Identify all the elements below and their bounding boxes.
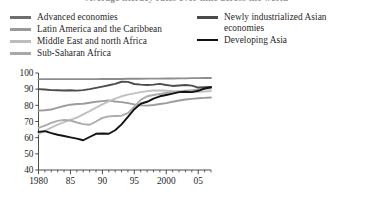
legend-column-left: Advanced economies Latin America and the… <box>10 12 195 60</box>
series-line-newly-industrialized-asian-economies <box>39 82 212 91</box>
legend-label: Developing Asia <box>224 35 287 46</box>
legend-swatch-icon <box>10 28 31 31</box>
legend-item-sub-saharan-africa: Sub-Saharan Africa <box>10 48 195 59</box>
legend-swatch-icon <box>197 39 218 42</box>
figure-title: Average literacy rates over time across … <box>0 0 374 3</box>
chart-legend: Advanced economies Latin America and the… <box>0 12 374 62</box>
legend-item-latin-america-and-the-caribbean: Latin America and the Caribbean <box>10 24 195 35</box>
y-tick-label: 90 <box>24 84 34 94</box>
y-tick-label: 60 <box>24 133 34 143</box>
legend-label: Newly industrialized Asian economies <box>224 12 327 33</box>
y-tick-label: 70 <box>24 117 34 127</box>
plot-area: 405060708090100 1980859095200005 <box>0 60 374 200</box>
legend-label-line-2: economies <box>224 23 327 34</box>
y-tick-label: 100 <box>19 68 33 78</box>
y-axis: 405060708090100 <box>19 68 38 175</box>
y-tick-label: 50 <box>24 149 34 159</box>
legend-label: Middle East and north Africa <box>37 36 147 47</box>
y-tick-label: 40 <box>24 165 34 175</box>
legend-label: Sub-Saharan Africa <box>37 48 111 59</box>
series-line-latin-america-and-the-caribbean <box>39 98 212 111</box>
legend-label: Latin America and the Caribbean <box>37 24 162 35</box>
legend-swatch-icon <box>10 40 31 43</box>
x-tick-label: 1980 <box>29 176 48 186</box>
x-axis: 1980859095200005 <box>29 170 211 186</box>
x-tick-label: 2000 <box>157 176 176 186</box>
data-series-group <box>39 78 212 140</box>
legend-swatch-icon <box>10 16 31 19</box>
legend-label-line-1: Newly industrialized Asian <box>224 12 327 23</box>
x-tick-label: 95 <box>130 176 140 186</box>
series-line-middle-east-and-north-africa <box>39 90 212 133</box>
legend-column-right: Newly industrialized Asian economies Dev… <box>197 12 372 47</box>
legend-item-advanced-economies: Advanced economies <box>10 12 195 23</box>
line-chart-svg: 405060708090100 1980859095200005 <box>0 60 374 200</box>
x-tick-label: 05 <box>194 176 204 186</box>
legend-swatch-icon <box>197 16 218 19</box>
x-tick-label: 85 <box>66 176 76 186</box>
chart-figure: Average literacy rates over time across … <box>0 0 374 200</box>
legend-label: Advanced economies <box>37 12 118 23</box>
legend-item-newly-industrialized-asian-economies: Newly industrialized Asian economies <box>197 12 372 33</box>
series-line-advanced-economies <box>39 78 212 79</box>
legend-item-middle-east-and-north-africa: Middle East and north Africa <box>10 36 195 47</box>
legend-item-developing-asia: Developing Asia <box>197 35 372 46</box>
y-tick-label: 80 <box>24 101 34 111</box>
x-tick-label: 90 <box>98 176 108 186</box>
legend-swatch-icon <box>10 52 31 55</box>
